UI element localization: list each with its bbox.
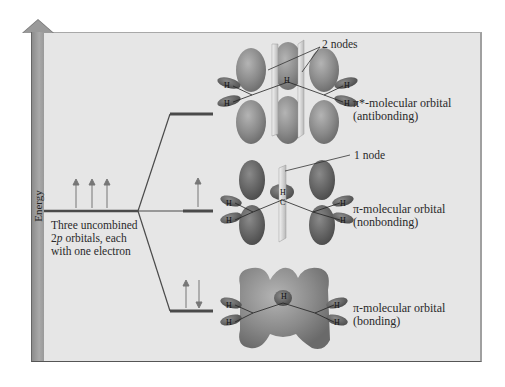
connector-bonding: [138, 211, 170, 311]
atom-label-h: H: [226, 316, 232, 329]
atom-label-h: H: [344, 79, 350, 92]
atom-label-h: H: [224, 97, 230, 110]
atom-label-h: H: [226, 197, 232, 210]
uncombined-label-line: 2p orbitals, each: [51, 232, 127, 245]
electron-up-arrow: [89, 179, 95, 208]
energy-levels: [44, 114, 213, 311]
node-plane: [272, 44, 278, 136]
orbital-diagram: [0, 0, 505, 387]
orbital-type-antibonding: (antibonding): [353, 110, 418, 123]
node-count-label: 1 node: [354, 149, 385, 162]
bonding-orbital-model: [219, 268, 349, 349]
atom-label-h: H: [284, 74, 290, 87]
atom-label-h: H: [344, 97, 350, 110]
orbital-type-bonding: (bonding): [353, 315, 400, 328]
atom-label-h: H: [226, 214, 232, 227]
antibonding-orbital-model: [216, 40, 359, 144]
electron-up-arrow: [73, 179, 79, 208]
electron-up-arrow: [195, 178, 201, 207]
atom-label-h: H: [340, 197, 346, 210]
electron-up-arrow: [104, 179, 110, 208]
node-count-label: 2 nodes: [322, 38, 357, 51]
connector-antibonding: [138, 114, 170, 211]
atom-label-h: H: [334, 316, 340, 329]
uncombined-label-line: Three uncombined: [51, 219, 138, 232]
orbital-type-nonbonding: (nonbonding): [353, 216, 418, 229]
atom-label-c: C: [280, 196, 285, 209]
nonbonding-orbital-model: [219, 155, 355, 245]
atom-label-h: H: [281, 290, 287, 303]
atom-label-h: H: [226, 299, 232, 312]
atom-label-h: H: [334, 299, 340, 312]
atom-label-h: H: [224, 79, 230, 92]
atom-label-h: H: [340, 214, 346, 227]
electron-down-arrow: [196, 280, 202, 308]
uncombined-label-line: with one electron: [51, 245, 131, 258]
electron-up-arrow: [183, 280, 189, 308]
